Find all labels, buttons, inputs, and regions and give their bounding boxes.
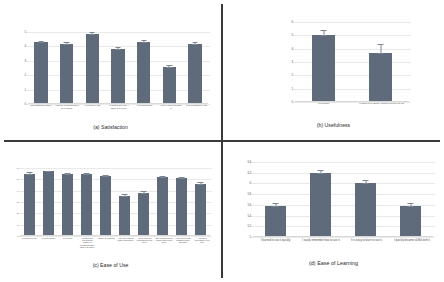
bar xyxy=(400,206,421,237)
x-axis-label: It is fun to use. xyxy=(80,105,106,111)
error-bar xyxy=(323,30,324,37)
x-axis-label: It requires the fewest steps possible to… xyxy=(78,237,97,248)
bar xyxy=(100,176,110,236)
x-axis-label: Using it is effortless. xyxy=(97,237,116,248)
bar-column xyxy=(352,22,409,102)
caption-d: (d) Ease of Learning xyxy=(223,260,444,266)
panel-ease-of-learning: 6.46.265.85.65.45.25 I learned to use it… xyxy=(223,142,444,282)
bar-group-d xyxy=(253,162,433,237)
x-axis-label: I am satisfied with it. xyxy=(28,105,54,111)
error-bar xyxy=(169,65,170,68)
error-bar xyxy=(92,32,93,35)
x-axis-label: I easily remember how to use it. xyxy=(299,239,345,242)
x-axis-label: I feel I need to have it. xyxy=(158,105,184,111)
y-tick-label: 0 xyxy=(281,100,295,104)
bar xyxy=(86,34,99,104)
bar xyxy=(369,53,393,102)
x-axis-label: I quickly became skillful with it. xyxy=(390,239,436,242)
x-axis-label: It works the way I want it to work. xyxy=(106,105,132,111)
baseline-c xyxy=(20,235,210,236)
y-tick-label: 3 xyxy=(14,59,28,63)
x-axis-label: I can recover from mistakes quickly and … xyxy=(174,237,193,248)
bar-column xyxy=(39,168,58,236)
x-axis-label: It is pleasant to use. xyxy=(184,105,210,111)
bar-column xyxy=(58,168,77,236)
bar xyxy=(310,173,331,237)
bar-group-c xyxy=(20,168,210,236)
x-axis-label: I can use it successfully every time. xyxy=(193,237,212,248)
bar xyxy=(43,171,53,236)
bar xyxy=(157,177,167,236)
y-tick-label: 1 xyxy=(8,223,20,226)
bar xyxy=(60,44,73,104)
y-tick-label: 5.2 xyxy=(237,224,253,228)
error-bar xyxy=(143,40,144,43)
grid-line xyxy=(251,237,435,238)
caption-c: (c) Ease of Use xyxy=(0,262,221,268)
caption-b: (b) Usefulness xyxy=(223,122,444,128)
bar xyxy=(195,184,205,236)
error-bar xyxy=(40,41,41,44)
x-axis-label: I would recommend it to a friend. xyxy=(54,105,80,111)
x-axis-label: It is user friendly. xyxy=(39,237,58,248)
x-axis-label: It is simple to use. xyxy=(20,237,39,248)
plot-area-c: 0123456 xyxy=(8,168,212,236)
bar xyxy=(119,196,129,236)
x-axis-label: I learned to use it quickly. xyxy=(253,239,299,242)
x-axis-label: It is useful. xyxy=(295,103,353,106)
error-bar xyxy=(105,175,106,177)
bar-column xyxy=(105,32,131,104)
y-tick-label: 3 xyxy=(281,60,295,64)
x-axis-labels-a: I am satisfied with it.I would recommend… xyxy=(28,105,210,111)
x-axis-label: It does everything I would expect it to … xyxy=(353,103,411,106)
y-tick-label: 6 xyxy=(281,20,295,24)
baseline-d xyxy=(253,236,433,237)
y-tick-label: 4 xyxy=(281,47,295,51)
plot-area-d: 6.46.265.85.65.45.25 xyxy=(237,162,435,237)
y-tick-label: 5 xyxy=(8,178,20,181)
bar xyxy=(24,174,34,236)
y-tick-label: 2 xyxy=(8,212,20,215)
x-axis-label: Both occasional and regular users would … xyxy=(154,237,173,248)
bar xyxy=(188,44,201,104)
x-axis-label: It is flexible. xyxy=(58,237,77,248)
bar xyxy=(265,206,286,237)
x-axis-labels-d: I learned to use it quickly.I easily rem… xyxy=(253,239,435,242)
x-axis-labels-c: It is simple to use.It is user friendly.… xyxy=(20,237,212,248)
error-bar xyxy=(86,173,87,175)
x-axis-label: It is easy to learn to use it. xyxy=(344,239,390,242)
bar-column xyxy=(134,168,153,236)
error-bar xyxy=(118,47,119,50)
y-tick-label: 6.4 xyxy=(237,160,253,164)
error-bar xyxy=(48,171,49,173)
bar-column xyxy=(172,168,191,236)
bar-column xyxy=(79,32,105,104)
bar-column xyxy=(388,162,433,237)
panel-ease-of-use: 0123456 It is simple to use.It is user f… xyxy=(0,142,221,282)
y-tick-label: 1 xyxy=(14,88,28,92)
bar-column xyxy=(96,168,115,236)
bar xyxy=(312,35,336,102)
bar-column xyxy=(343,162,388,237)
error-bar xyxy=(410,203,411,208)
x-axis-labels-b: It is useful.It does everything I would … xyxy=(295,103,411,106)
bar xyxy=(34,42,47,104)
error-bar xyxy=(275,203,276,207)
bar xyxy=(62,174,72,236)
bar-column xyxy=(298,162,343,237)
error-bar xyxy=(195,42,196,45)
bar-column xyxy=(115,168,134,236)
y-tick-label: 2 xyxy=(14,73,28,77)
bar-column xyxy=(295,22,352,102)
error-bar xyxy=(181,177,182,179)
y-tick-label: 4 xyxy=(14,44,28,48)
bar-column xyxy=(191,168,210,236)
bar xyxy=(138,193,148,236)
y-tick-label: 5 xyxy=(237,235,253,239)
error-bar xyxy=(124,194,125,197)
y-tick-label: 5 xyxy=(14,30,28,34)
error-bar xyxy=(200,182,201,185)
figure-canvas: 012345 I am satisfied with it.I would re… xyxy=(0,0,444,282)
bar xyxy=(137,42,150,104)
x-axis-label: It is wonderful. xyxy=(132,105,158,111)
